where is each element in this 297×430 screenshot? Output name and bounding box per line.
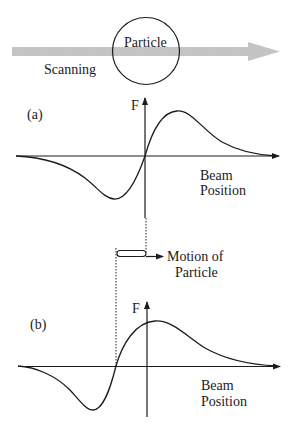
motion-indicator: Motion of Particle	[116, 218, 224, 367]
optical-trap-force-diagram: Particle Scanning (a) F Beam Position Mo…	[0, 0, 297, 430]
panel-b-label: (b)	[30, 317, 47, 333]
panel-b-position-label: Position	[201, 394, 247, 409]
displacement-bar	[117, 251, 146, 257]
panel-a-position-label: Position	[200, 183, 246, 198]
particle-label: Particle	[124, 35, 167, 50]
panel-a-label: (a)	[27, 107, 43, 123]
panel-a-f-label: F	[131, 98, 139, 113]
motion-label-line1: Motion of	[167, 249, 224, 264]
panel-b-beam-label: Beam	[201, 378, 234, 393]
motion-label-line2: Particle	[175, 265, 218, 280]
panel-a: (a) F Beam Position	[16, 98, 279, 218]
panel-b: (b) F Beam Position	[18, 301, 280, 417]
panel-a-beam-label: Beam	[200, 168, 233, 183]
panel-b-f-label: F	[132, 301, 140, 316]
scanning-label: Scanning	[44, 62, 96, 77]
